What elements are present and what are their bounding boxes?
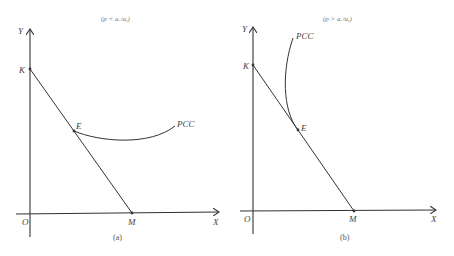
point-m-a — [131, 212, 134, 215]
point-k-a — [29, 68, 32, 71]
pcc-curve-b — [285, 38, 298, 130]
panel-b: (p > aₓ/aᵧ) Y X O K M E PCC (b) — [240, 15, 437, 242]
point-m-label-a: M — [127, 217, 136, 227]
pcc-label-a: PCC — [176, 119, 196, 129]
x-axis-label-b: X — [430, 214, 437, 224]
y-axis-label-a: Y — [18, 26, 24, 36]
pcc-curve-a — [74, 126, 175, 140]
x-axis-a — [16, 212, 219, 214]
origin-label-b: O — [244, 214, 251, 224]
point-m-b — [353, 210, 356, 213]
point-k-b — [252, 64, 255, 67]
point-e-label-a: E — [75, 121, 82, 131]
caption-b: (b) — [340, 233, 350, 242]
caption-a: (a) — [113, 233, 122, 242]
panel-a: (p < aₓ/aᵧ) Y X O K M E PCC (a) — [16, 15, 219, 242]
point-m-label-b: M — [348, 214, 357, 224]
condition-label-a: (p < aₓ/aᵧ) — [101, 15, 131, 23]
x-axis-label-a: X — [212, 217, 219, 227]
y-axis-label-b: Y — [242, 24, 248, 34]
point-e-label-b: E — [300, 123, 307, 133]
budget-line-b — [253, 65, 354, 211]
point-k-label-b: K — [242, 61, 250, 71]
x-axis-b — [240, 210, 436, 211]
condition-label-b: (p > aₓ/aᵧ) — [323, 15, 353, 23]
budget-line-a — [30, 69, 132, 213]
pcc-label-b: PCC — [295, 31, 315, 41]
origin-label-a: O — [22, 217, 29, 227]
diagram-canvas: (p < aₓ/aᵧ) Y X O K M E PCC (a) (p > aₓ/… — [0, 0, 454, 256]
point-k-label-a: K — [18, 65, 26, 75]
